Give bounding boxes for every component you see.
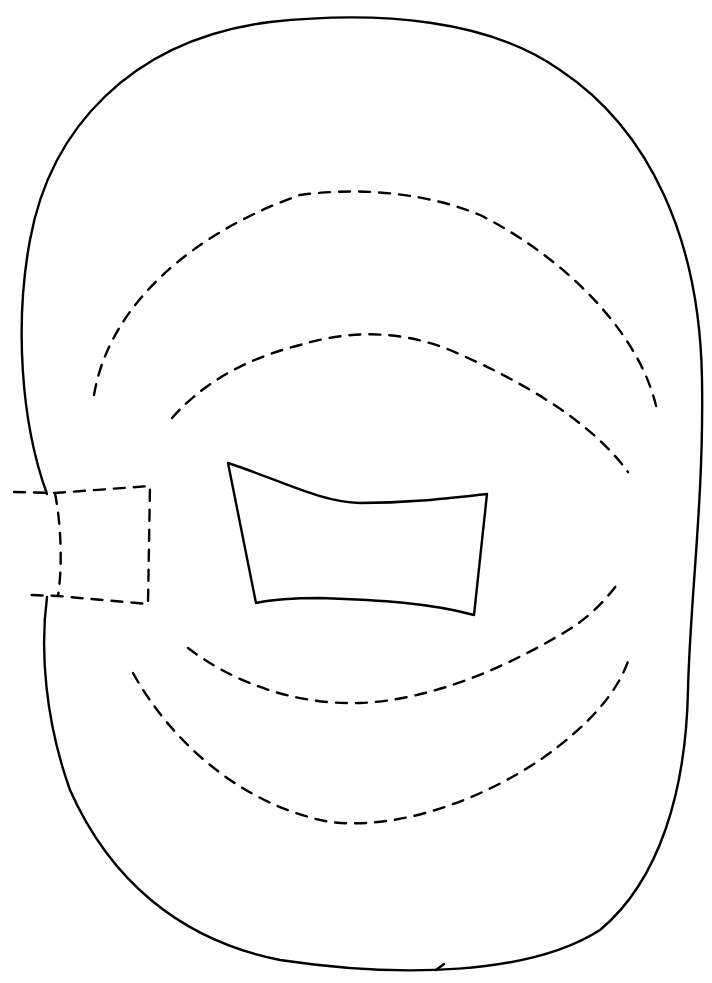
outer-outline xyxy=(22,17,703,970)
side-tab xyxy=(14,486,150,604)
upper-arc-outer xyxy=(94,192,657,410)
inner-window xyxy=(228,463,487,615)
lower-arc-outer xyxy=(133,655,630,823)
diagram-canvas xyxy=(0,0,712,983)
upper-arc-inner xyxy=(172,334,628,472)
